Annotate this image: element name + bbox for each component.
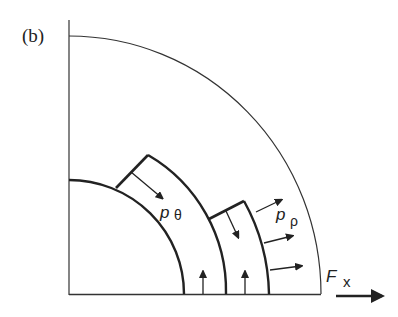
outer-element-arc (244, 201, 269, 294)
quarter-cylinder-diagram: (b) p θ p ρ F x (0, 0, 398, 317)
svg-text:θ: θ (174, 207, 182, 223)
inner-boundary-arc (69, 180, 184, 294)
svg-text:p: p (275, 205, 285, 224)
svg-text:F: F (326, 267, 338, 286)
svg-text:x: x (343, 273, 351, 290)
panel-label: (b) (22, 25, 44, 47)
svg-text:p: p (159, 203, 169, 222)
p-theta-arrow-2 (226, 211, 238, 237)
outer-boundary-arc (69, 36, 321, 294)
stress-element-upper (116, 155, 226, 294)
label-p-rho: p ρ (275, 205, 298, 229)
stress-element-lower (209, 201, 269, 294)
svg-text:ρ: ρ (290, 213, 298, 229)
p-rho-arrow-2 (264, 236, 292, 243)
label-force: F x (326, 267, 351, 290)
label-p-theta: p θ (159, 203, 182, 223)
p-rho-arrow-3 (270, 266, 301, 270)
p-theta-arrow (131, 172, 162, 198)
